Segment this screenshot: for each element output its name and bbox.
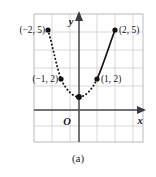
y-axis-label: y [67, 16, 74, 27]
origin-label: O [63, 116, 71, 127]
coordinate-plane-svg: (−2, 5) (−1, 2) (1, 2) (2, 5) y x O [0, 0, 156, 177]
x-axis-label: x [136, 115, 142, 126]
curve-group [48, 30, 115, 97]
label-point-2-5: (2, 5) [119, 25, 139, 36]
point-marker [112, 27, 117, 32]
label-point-neg1-2: (−1, 2) [32, 74, 58, 85]
dotted-branch-path [48, 30, 97, 97]
solid-branch-path [97, 30, 115, 79]
x-axis-arrow-icon [137, 106, 146, 114]
graph-figure: (−2, 5) (−1, 2) (1, 2) (2, 5) y x O [0, 0, 156, 177]
y-axis-arrow-icon [75, 11, 83, 21]
data-points [45, 27, 117, 100]
label-point-1-2: (1, 2) [101, 74, 121, 85]
label-point-neg2-5: (−2, 5) [19, 25, 45, 36]
point-marker [45, 27, 50, 32]
point-marker [58, 76, 63, 81]
point-marker [76, 94, 82, 100]
figure-caption: (a) [0, 152, 156, 164]
point-marker [94, 76, 99, 81]
